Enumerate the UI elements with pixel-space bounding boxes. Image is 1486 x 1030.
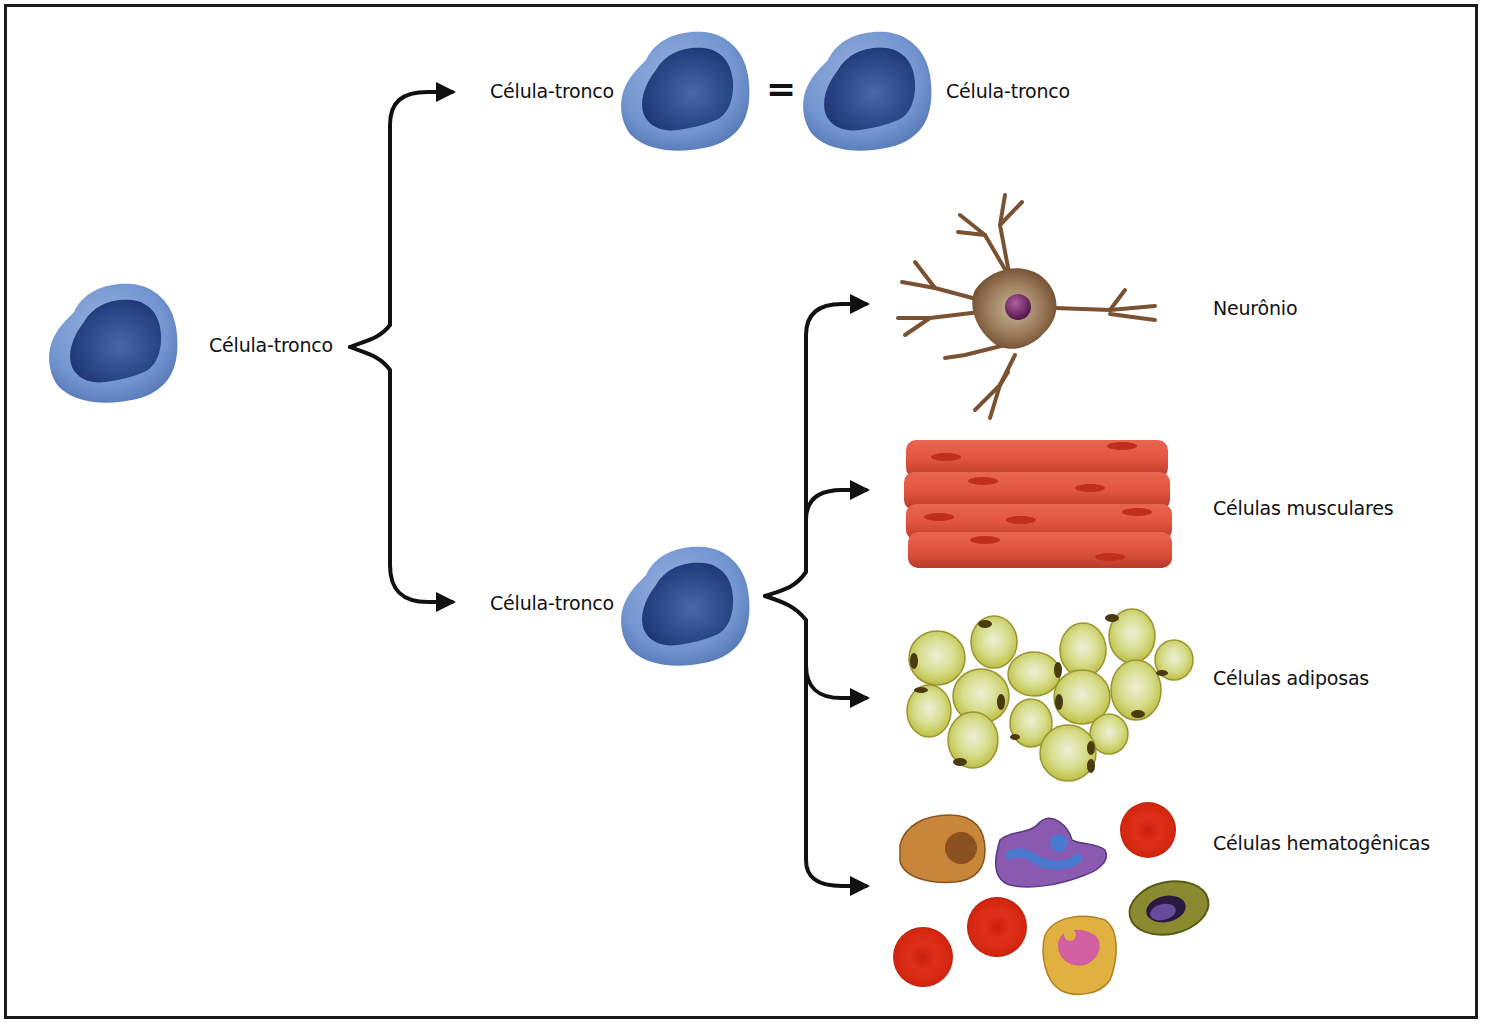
adipose-cells-illustration — [907, 609, 1193, 781]
blood-cells-label: Células hematogênicas — [1213, 832, 1430, 854]
differentiating-stem-cell — [621, 547, 749, 666]
muscle-cells-illustration — [904, 440, 1172, 568]
renewed-stem-cell-left-label: Célula-tronco — [490, 80, 614, 102]
brace-differentiation — [765, 304, 866, 886]
brace-self-renewal — [350, 92, 452, 602]
neuron-illustration — [898, 195, 1155, 418]
renewed-stem-cell-left — [621, 32, 749, 151]
renewed-stem-cell-right — [803, 32, 931, 151]
adipose-cells-label: Células adiposas — [1213, 667, 1369, 689]
equals-symbol: = — [766, 68, 796, 109]
neuron-label: Neurônio — [1213, 297, 1297, 319]
root-stem-cell-label: Célula-tronco — [209, 334, 333, 356]
root-stem-cell — [49, 284, 177, 403]
differentiating-stem-cell-label: Célula-tronco — [490, 592, 614, 614]
blood-cells-illustration — [893, 802, 1214, 994]
muscle-cells-label: Células musculares — [1213, 497, 1393, 519]
renewed-stem-cell-right-label: Célula-tronco — [946, 80, 1070, 102]
